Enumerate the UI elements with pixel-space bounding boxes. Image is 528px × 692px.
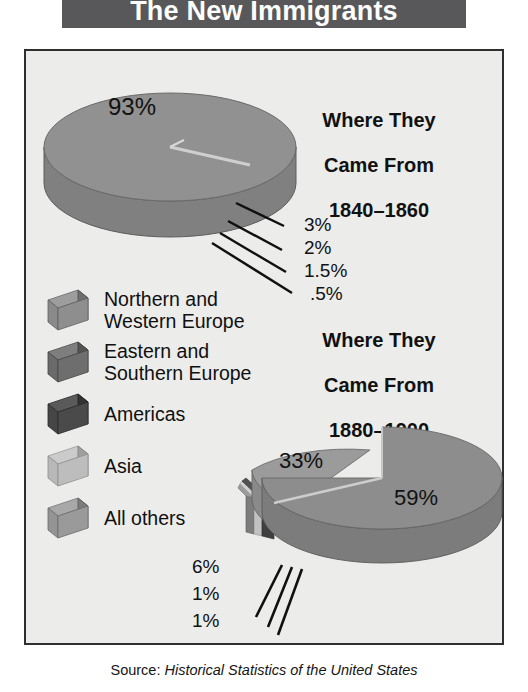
pie2-callout-0: 6% xyxy=(192,556,219,578)
pie2-callout-lines xyxy=(204,541,334,641)
source-title: Historical Statistics of the United Stat… xyxy=(164,662,417,678)
pie2-label-59: 59% xyxy=(394,485,438,511)
chart-frame: Where They Came From 1840–1860 xyxy=(24,49,504,645)
legend-label: Asia xyxy=(104,455,142,477)
legend-item-eastern-southern-europe[interactable]: Eastern and Southern Europe xyxy=(36,336,286,388)
page-title: The New Immigrants xyxy=(130,0,398,26)
legend-label: Eastern and Southern Europe xyxy=(104,340,251,384)
pie1-callout-3: .5% xyxy=(310,283,343,305)
legend-swatch-icon xyxy=(44,288,90,332)
pie1-callout-1: 2% xyxy=(304,237,331,259)
pie1-callout-0: 3% xyxy=(304,214,331,236)
chart2-heading-line2: Came From xyxy=(274,374,484,397)
pie1-label-93: 93% xyxy=(108,93,156,121)
source-label: Source: xyxy=(110,662,164,678)
legend-swatch-icon xyxy=(44,340,90,384)
title-banner: The New Immigrants xyxy=(62,0,466,28)
pie2-label-33: 33% xyxy=(279,448,323,474)
legend-label: All others xyxy=(104,507,185,529)
legend-swatch-icon xyxy=(44,392,90,436)
chart1-heading-line1: Where They xyxy=(274,109,484,132)
pie2-callout-2: 1% xyxy=(192,610,219,632)
chart1-heading-line2: Came From xyxy=(274,154,484,177)
legend-label: Northern and Western Europe xyxy=(104,288,245,332)
source-caption: Source: Historical Statistics of the Uni… xyxy=(0,662,528,678)
legend-swatch-icon xyxy=(44,444,90,488)
legend-item-northern-western-europe[interactable]: Northern and Western Europe xyxy=(36,284,286,336)
legend-swatch-icon xyxy=(44,496,90,540)
legend-label: Americas xyxy=(104,403,185,425)
chart2-heading-line1: Where They xyxy=(274,329,484,352)
pie2-callout-1: 1% xyxy=(192,583,219,605)
pie1-callout-2: 1.5% xyxy=(304,260,347,282)
